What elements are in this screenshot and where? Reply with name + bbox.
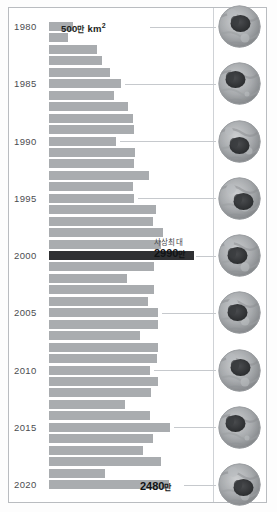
satellite-image-2005 <box>218 291 261 334</box>
leader-line-1990 <box>120 141 216 142</box>
legend-superscript: 2 <box>102 22 106 29</box>
leader-line-1995 <box>138 198 216 199</box>
bar-2012 <box>49 388 151 397</box>
year-label-1990: 1990 <box>14 136 48 147</box>
bar-1983 <box>49 56 102 65</box>
bar-1985 <box>49 79 121 88</box>
bar-2008 <box>49 343 158 352</box>
leader-line-2010 <box>154 370 216 371</box>
satellite-image-1980 <box>218 5 261 48</box>
bar-2010 <box>49 366 150 375</box>
bar-1999 <box>49 240 161 249</box>
end-value-label: 2480만 <box>140 480 171 492</box>
legend-unit2: km <box>88 23 102 34</box>
bar-2001 <box>49 262 154 271</box>
satellite-image-1985 <box>218 62 261 105</box>
bar-1996 <box>49 205 156 214</box>
year-label-2020: 2020 <box>14 479 48 490</box>
bar-1997 <box>49 217 153 226</box>
legend-label: 500만 km2 <box>61 22 106 34</box>
year-label-2005: 2005 <box>14 307 48 318</box>
year-label-2000: 2000 <box>14 250 48 261</box>
bar-2003 <box>49 285 154 294</box>
bar-1984 <box>49 68 110 77</box>
bar-2014 <box>49 411 150 420</box>
peak-note: 사상최대 <box>154 238 185 247</box>
infographic-root: 198019851990199520002005201020152020 500… <box>0 0 277 512</box>
bar-1986 <box>49 91 114 100</box>
leader-line-2000 <box>196 256 216 257</box>
satellite-image-2000 <box>218 234 261 277</box>
bar-2005 <box>49 308 158 317</box>
satellite-image-2020 <box>218 463 261 506</box>
bar-2016 <box>49 434 153 443</box>
bar-1982 <box>49 45 97 54</box>
leader-line-2005 <box>162 313 216 314</box>
peak-value: 2990만 <box>154 247 185 261</box>
bar-2004 <box>49 297 148 306</box>
peak-annotation: 사상최대 2990만 <box>154 238 185 261</box>
year-label-1980: 1980 <box>14 21 48 32</box>
satellite-image-1990 <box>218 120 261 163</box>
satellite-image-2015 <box>218 406 261 449</box>
bar-1991 <box>49 148 135 157</box>
year-label-2010: 2010 <box>14 365 48 376</box>
bar-1995 <box>49 194 134 203</box>
bar-2015 <box>49 423 170 432</box>
bar-1981 <box>49 33 68 42</box>
year-label-1985: 1985 <box>14 78 48 89</box>
bar-2002 <box>49 274 127 283</box>
legend-unit: 만 <box>77 25 84 34</box>
leader-line-1980 <box>150 27 216 28</box>
bar-1990 <box>49 137 116 146</box>
leader-line-2020 <box>184 485 216 486</box>
bar-2011 <box>49 377 158 386</box>
legend-value: 500 <box>61 23 77 34</box>
bar-2013 <box>49 400 125 409</box>
bar-2007 <box>49 331 140 340</box>
year-label-2015: 2015 <box>14 422 48 433</box>
bar-1987 <box>49 102 128 111</box>
bar-1992 <box>49 159 134 168</box>
bar-1994 <box>49 182 133 191</box>
satellite-image-2010 <box>218 349 261 392</box>
leader-line-1985 <box>125 84 216 85</box>
bar-2018 <box>49 457 161 466</box>
satellite-image-1995 <box>218 177 261 220</box>
bar-1988 <box>49 114 133 123</box>
year-label-1995: 1995 <box>14 193 48 204</box>
bar-2009 <box>49 354 157 363</box>
leader-line-2015 <box>174 427 216 428</box>
bar-2006 <box>49 320 158 329</box>
bar-2019 <box>49 469 105 478</box>
bar-1993 <box>49 171 149 180</box>
bar-1998 <box>49 228 163 237</box>
bar-1989 <box>49 125 134 134</box>
bar-2017 <box>49 446 143 455</box>
